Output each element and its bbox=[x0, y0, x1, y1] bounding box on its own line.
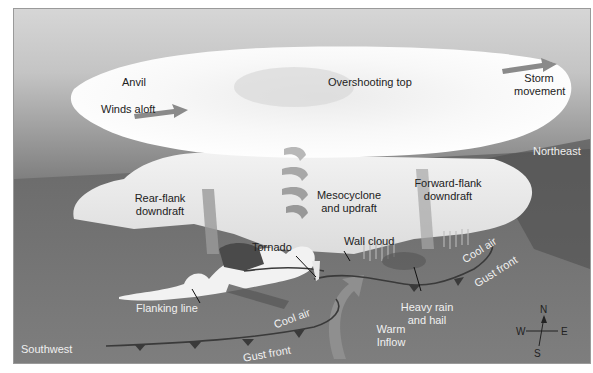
label-heavy-rain-line1: Heavy rain bbox=[397, 301, 457, 314]
label-forward-flank-line2: downdraft bbox=[408, 190, 488, 203]
label-forward-flank-line1: Forward-flank bbox=[408, 177, 488, 190]
label-wall-cloud: Wall cloud bbox=[344, 235, 394, 248]
label-tornado: Tornado bbox=[252, 241, 292, 254]
label-storm-movement-line1: Storm bbox=[514, 72, 564, 85]
label-southwest: Southwest bbox=[21, 343, 72, 356]
label-forward-flank-downdraft: Forward-flank downdraft bbox=[408, 177, 488, 203]
label-warm-inflow-line1: Warm bbox=[371, 323, 411, 336]
supercell-diagram: Anvil Winds aloft Overshooting top Storm… bbox=[13, 8, 591, 364]
label-storm-movement-line2: movement bbox=[514, 85, 564, 98]
compass-north: N bbox=[540, 303, 547, 316]
label-rear-flank-downdraft: Rear-flank downdraft bbox=[129, 192, 191, 218]
label-rear-flank-line1: Rear-flank bbox=[129, 192, 191, 205]
label-overshooting-top: Overshooting top bbox=[328, 76, 412, 89]
label-warm-inflow: Warm Inflow bbox=[371, 323, 411, 349]
label-storm-movement: Storm movement bbox=[514, 72, 564, 98]
label-rear-flank-line2: downdraft bbox=[129, 205, 191, 218]
compass-east: E bbox=[561, 325, 568, 338]
label-northeast: Northeast bbox=[533, 145, 581, 158]
label-winds-aloft: Winds aloft bbox=[101, 103, 155, 116]
label-mesocyclone: Mesocyclone and updraft bbox=[313, 189, 385, 215]
label-mesocyclone-line1: Mesocyclone bbox=[313, 189, 385, 202]
compass-west: W bbox=[516, 325, 525, 338]
label-flanking-line: Flanking line bbox=[136, 302, 198, 315]
label-warm-inflow-line2: Inflow bbox=[371, 336, 411, 349]
label-anvil: Anvil bbox=[122, 76, 146, 89]
label-mesocyclone-line2: and updraft bbox=[313, 202, 385, 215]
compass-south: S bbox=[534, 347, 541, 360]
